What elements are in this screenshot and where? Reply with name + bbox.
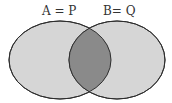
venn-diagram: A = P B= Q — [0, 0, 172, 103]
set-a-label: A = P — [41, 4, 76, 18]
set-b-label: B= Q — [103, 4, 136, 18]
